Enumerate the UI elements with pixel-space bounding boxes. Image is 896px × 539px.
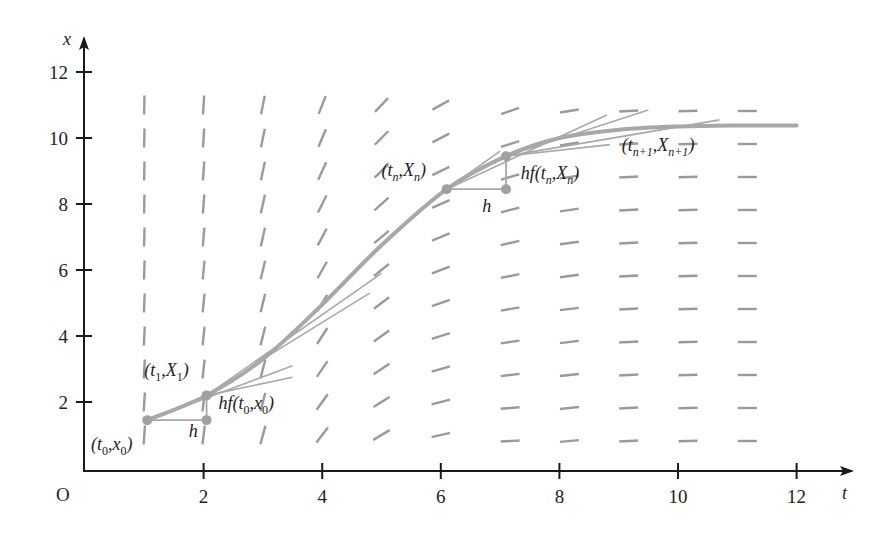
slope-segment xyxy=(432,300,450,306)
slope-segment xyxy=(144,261,145,280)
y-tick-label: 8 xyxy=(59,194,69,215)
euler-point xyxy=(142,415,152,425)
slope-segment xyxy=(501,341,520,344)
x-tick-label: 12 xyxy=(787,486,806,507)
slope-segment xyxy=(501,307,520,310)
annotation-tnXn: (tn,Xn) xyxy=(382,160,427,184)
slope-segment xyxy=(560,341,579,343)
slope-segment xyxy=(619,408,638,409)
slope-segment xyxy=(144,294,145,313)
slope-segment xyxy=(560,374,579,376)
euler-point xyxy=(202,390,212,400)
annotation-hfn: hf(tn,Xn) xyxy=(521,163,580,187)
annotation-h0: h xyxy=(189,421,198,441)
slope-segment xyxy=(432,100,449,109)
slope-segment xyxy=(374,297,389,308)
slope-segment xyxy=(375,131,388,144)
slope-segment xyxy=(316,427,328,442)
slope-segment xyxy=(432,433,451,437)
slope-segment xyxy=(318,262,327,279)
annotations: (t0,x0)hhf(t0,x0)(t1,X1)(tn,Xn)hhf(tn,Xn… xyxy=(91,135,694,458)
slope-segment xyxy=(432,366,450,371)
slope-segment xyxy=(317,394,328,409)
slope-segment xyxy=(619,210,638,211)
slope-segment xyxy=(619,441,638,442)
slope-segment xyxy=(432,134,449,143)
slope-segment xyxy=(560,242,579,245)
euler-point xyxy=(442,184,452,194)
slope-segment xyxy=(619,309,638,310)
slope-segment xyxy=(317,361,328,377)
slope-segment xyxy=(560,440,579,442)
y-tick-label: 12 xyxy=(49,62,68,83)
slope-segment xyxy=(317,328,327,344)
slope-segment xyxy=(203,327,205,346)
slope-segment xyxy=(203,228,205,247)
x-axis-label: t xyxy=(842,483,848,503)
slope-segment xyxy=(501,440,520,441)
annotation-t1X1: (t1,X1) xyxy=(144,360,189,384)
slope-segment xyxy=(432,333,450,339)
origin-label: O xyxy=(56,484,70,505)
slope-segment xyxy=(261,261,265,279)
slope-segment xyxy=(374,330,389,341)
slope-segment xyxy=(203,294,205,313)
slope-segment xyxy=(144,327,145,346)
x-tick-label: 2 xyxy=(199,486,209,507)
slope-segment xyxy=(260,426,265,444)
slope-segment xyxy=(374,364,390,375)
slope-segment xyxy=(501,108,519,114)
y-tick-label: 6 xyxy=(59,260,69,281)
slope-segment xyxy=(432,267,450,274)
slope-segment xyxy=(432,233,450,240)
slope-segment xyxy=(373,397,389,407)
slope-segment xyxy=(203,96,204,115)
slope-segment xyxy=(560,109,579,112)
y-tick-label: 2 xyxy=(59,392,69,413)
slope-segment xyxy=(560,209,579,212)
slope-segment xyxy=(501,208,519,213)
slope-segment xyxy=(203,360,205,379)
y-tick-label: 10 xyxy=(49,128,68,149)
x-tick-label: 8 xyxy=(555,486,565,507)
slope-segment xyxy=(261,96,265,115)
slope-segment xyxy=(619,111,638,112)
slope-segment xyxy=(261,327,266,345)
annotation-hn: h xyxy=(482,196,491,216)
slope-segment xyxy=(261,228,265,247)
slope-segment xyxy=(501,241,520,245)
slope-segment xyxy=(501,407,520,409)
annotation-tn1Xn1: (tn+1,Xn+1) xyxy=(622,135,695,159)
slope-segment xyxy=(261,162,265,181)
slope-segment xyxy=(619,375,638,376)
slope-segment xyxy=(203,162,204,181)
euler-point xyxy=(501,184,511,194)
slope-segment xyxy=(560,407,579,409)
x-tick-label: 4 xyxy=(317,486,327,507)
slope-segment xyxy=(619,177,638,178)
slope-segment xyxy=(144,426,145,445)
x-tick-label: 6 xyxy=(436,486,446,507)
euler-points xyxy=(142,151,511,425)
slope-segment xyxy=(619,243,638,244)
slope-segment xyxy=(560,308,579,310)
slope-segment xyxy=(432,167,449,175)
slope-segment xyxy=(261,294,266,312)
slope-segment xyxy=(374,198,388,211)
slope-segment xyxy=(501,141,519,147)
y-tick-label: 4 xyxy=(59,326,69,347)
euler-point xyxy=(501,151,511,161)
annotation-t0x0: (t0,x0) xyxy=(91,434,132,458)
slope-segment xyxy=(501,274,520,278)
slope-segment xyxy=(375,98,388,112)
slope-segment xyxy=(501,174,519,179)
slope-segment xyxy=(619,276,638,277)
euler-method-diagram: 2468101224681012 x t O (t0,x0)hhf(t0,x0)… xyxy=(0,0,896,539)
slope-segment xyxy=(203,195,204,214)
euler-point xyxy=(202,415,212,425)
slope-segment xyxy=(144,393,145,412)
slope-segment xyxy=(261,129,265,148)
tangent-line xyxy=(263,293,370,359)
slope-segment xyxy=(318,129,325,146)
slope-segment xyxy=(318,229,327,246)
